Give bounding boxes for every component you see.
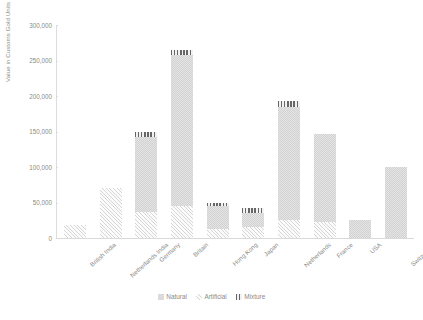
bar-segment-natural[interactable] [207, 206, 229, 229]
plot-area [57, 25, 414, 238]
bar-chart: Value in Customs Gold Units 300,000250,0… [0, 0, 423, 320]
chart-legend: NaturalArtificialMixture [0, 293, 423, 300]
legend-label: Artificial [204, 293, 226, 300]
bar-segment-natural[interactable] [242, 213, 264, 227]
bar-group[interactable] [242, 208, 264, 238]
bar-segment-artificial[interactable] [100, 188, 122, 238]
x-tick-label: Britain [191, 241, 209, 258]
y-tick-mark [56, 96, 58, 97]
bar-segment-natural[interactable] [171, 55, 193, 206]
legend-item[interactable]: Natural [158, 293, 187, 300]
y-axis-ticks: 300,000250,000200,000150,000100,00050,00… [4, 25, 52, 238]
bar-segment-natural[interactable] [278, 107, 300, 221]
legend-swatch-icon [196, 294, 202, 300]
y-tick-label: 250,000 [8, 57, 52, 64]
y-tick-mark [56, 167, 58, 168]
y-tick-label: 200,000 [8, 93, 52, 100]
y-tick-label: 100,000 [8, 164, 52, 171]
bar-segment-artificial[interactable] [242, 227, 264, 238]
x-tick-label: Netherlands [303, 241, 332, 269]
legend-item[interactable]: Artificial [196, 293, 227, 300]
bar-segment-artificial[interactable] [314, 222, 336, 238]
legend-item[interactable]: Mixture [236, 293, 265, 300]
bar-group[interactable] [207, 203, 229, 238]
bar-group[interactable] [314, 134, 336, 238]
y-tick-mark [56, 61, 58, 62]
bar-segment-natural[interactable] [314, 134, 336, 223]
x-tick-label: USA [369, 241, 383, 255]
bar-segment-natural[interactable] [349, 220, 371, 238]
y-tick-mark [56, 238, 58, 239]
bar-segment-artificial[interactable] [135, 212, 157, 238]
x-tick-label: Hong Kong [231, 241, 259, 267]
bar-group[interactable] [349, 220, 371, 238]
x-axis-line [57, 238, 414, 239]
bar-group[interactable] [171, 50, 193, 238]
y-tick-label: 150,000 [8, 128, 52, 135]
x-tick-label: British India [88, 241, 117, 268]
legend-label: Natural [166, 293, 187, 300]
bar-group[interactable] [135, 132, 157, 238]
bar-segment-artificial[interactable] [207, 229, 229, 238]
bar-group[interactable] [385, 167, 407, 238]
bar-segment-natural[interactable] [135, 137, 157, 212]
x-tick-label: Japan [263, 241, 280, 257]
y-tick-label: 50,000 [8, 199, 52, 206]
x-tick-label: France [335, 241, 354, 259]
y-tick-mark [56, 203, 58, 204]
bar-group[interactable] [100, 188, 122, 238]
bar-segment-artificial[interactable] [278, 220, 300, 238]
bar-segment-artificial[interactable] [171, 206, 193, 238]
y-tick-mark [56, 132, 58, 133]
bar-group[interactable] [278, 101, 300, 238]
bar-group[interactable] [64, 225, 86, 238]
bar-segment-artificial[interactable] [64, 225, 86, 238]
x-tick-label: Switzerland [409, 241, 423, 268]
legend-label: Mixture [244, 293, 265, 300]
y-tick-label: 0 [8, 235, 52, 242]
legend-swatch-icon [158, 294, 164, 300]
y-tick-label: 300,000 [8, 22, 52, 29]
y-tick-mark [56, 25, 58, 26]
legend-swatch-icon [236, 294, 242, 300]
bar-segment-natural[interactable] [385, 167, 407, 238]
